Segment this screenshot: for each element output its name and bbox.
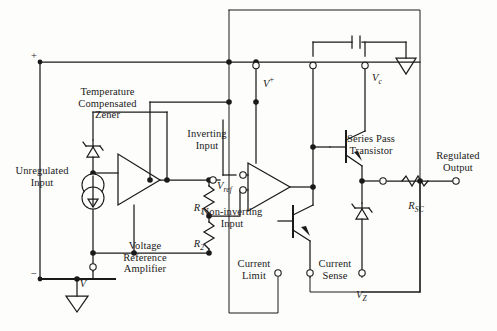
current-limit-transistor-symbol xyxy=(278,187,313,277)
compensation-node-wiring xyxy=(313,36,416,187)
vz-terminal-dot xyxy=(359,270,365,276)
vc-label: Vc xyxy=(372,60,394,87)
compensation-terminal-dot xyxy=(310,62,316,68)
vref-terminal-dot xyxy=(210,177,216,183)
current-sense-label: Current Sense xyxy=(311,258,359,281)
pre-rsc-terminal-dot xyxy=(380,178,386,184)
temperature-compensated-zener-label: Temperature Compensated Zener xyxy=(55,86,160,121)
v-plus-terminal-dot xyxy=(253,62,259,68)
vc-terminal-dot xyxy=(362,62,368,68)
resistor-r2-label: R2 xyxy=(186,226,204,253)
resistor-rsc-label: RSC xyxy=(401,188,431,215)
v-minus-label: V− xyxy=(69,262,91,289)
circuit-diagram-canvas: .w { stroke:#1a1a1a; stroke-width:1.25; … xyxy=(0,0,497,331)
vref-label: Vref xyxy=(217,168,245,195)
voltage-reference-amplifier-label: Voltage Reference Amplifier xyxy=(105,240,185,275)
inverting-input-label: Inverting Input xyxy=(176,128,238,151)
vz-label: VZ xyxy=(356,277,378,304)
regulated-output-terminal-dot xyxy=(453,178,459,184)
zener-diode-reference-symbol xyxy=(83,140,103,157)
current-limit-label: Current Limit xyxy=(228,258,280,281)
unregulated-input-label: Unregulated Input xyxy=(6,165,78,188)
current-source-symbol xyxy=(82,174,104,209)
series-pass-transistor-label: Series Pass Transistor xyxy=(336,133,406,156)
v-plus-label: V+ xyxy=(263,62,285,89)
negative-polarity-label: − xyxy=(28,268,40,280)
positive-polarity-label: + xyxy=(28,50,40,62)
resistor-r1-label: R1 xyxy=(186,190,204,217)
v-plus-branch xyxy=(253,68,259,163)
regulated-output-label: Regulated Output xyxy=(424,150,492,173)
